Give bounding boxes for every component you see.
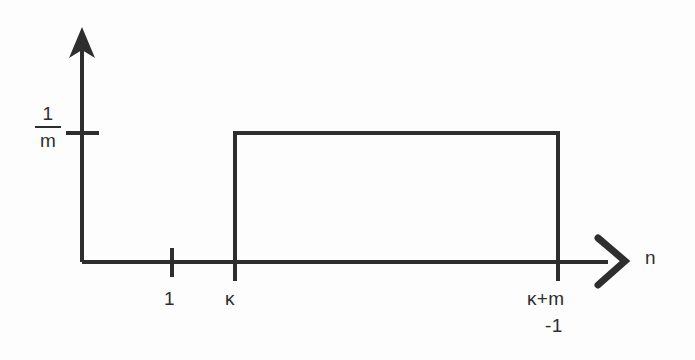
fraction-denominator: m (26, 131, 70, 150)
fraction-bar (35, 126, 61, 128)
plot-svg (0, 0, 695, 360)
figure-canvas: 1 m 1 κ κ+m -1 n (0, 0, 695, 360)
fraction-numerator: 1 (26, 104, 70, 126)
y-axis-value-label: 1 m (26, 104, 70, 150)
x-axis-name-label: n (645, 248, 656, 267)
x-tick-label-kappa: κ (225, 289, 235, 308)
x-tick-label-minus-one: -1 (545, 316, 563, 335)
x-tick-label-one: 1 (164, 289, 175, 308)
x-tick-label-kappa-plus-m: κ+m (527, 289, 564, 308)
